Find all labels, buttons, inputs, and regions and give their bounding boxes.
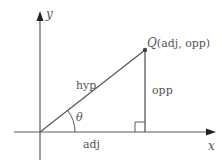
opposite-label: opp [152,85,173,96]
triangle-diagram [0,0,222,165]
right-angle-marker [135,122,145,132]
angle-arc [68,110,75,132]
x-axis-label: x [208,140,215,152]
x-axis-arrow-icon [206,129,216,136]
hypotenuse-label: hyp [76,80,96,91]
point-q-name: Q [147,36,157,50]
adjacent-label: adj [83,139,100,150]
y-axis-arrow-icon [37,11,44,21]
point-q-coords: (adj, opp) [157,37,210,50]
angle-theta-label: θ [76,112,83,123]
point-q-label: Q(adj, opp) [147,37,210,49]
y-axis-label: y [46,8,53,20]
